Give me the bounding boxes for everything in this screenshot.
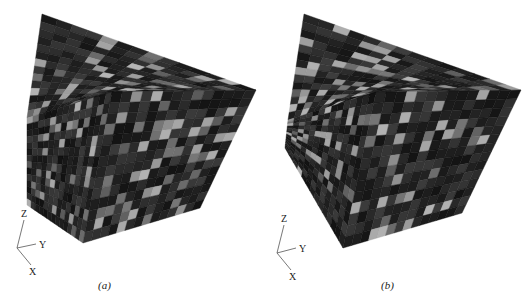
axis-triad-a: ZYX	[17, 208, 46, 277]
axis-label-x: X	[29, 266, 37, 277]
figure-canvas: ZYXZYX	[0, 0, 532, 303]
voxel-cube-a	[27, 14, 256, 243]
axis-label-y: Y	[39, 239, 46, 250]
axis-label-y: Y	[299, 243, 306, 254]
axis-label-z: Z	[281, 213, 287, 224]
axis-triad-b: ZYX	[277, 213, 306, 282]
cube-right-face	[83, 90, 256, 243]
caption-b: (b)	[381, 279, 394, 291]
axis-label-x: X	[289, 271, 297, 282]
caption-a: (a)	[98, 279, 111, 291]
axis-label-z: Z	[21, 208, 27, 219]
voxel-cube-b	[285, 14, 521, 248]
